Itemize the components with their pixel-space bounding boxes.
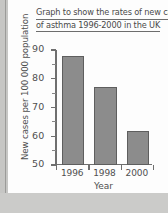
y-minor-tick-65	[52, 121, 56, 122]
plot-area: 5060708090 199619982000	[55, 50, 152, 165]
y-tick-50: 50	[51, 164, 56, 165]
page-bottom-band	[0, 193, 168, 213]
chart-title-line-2: of asthma 1996-2000 in the UK	[36, 20, 160, 33]
y-axis-title: New cases per 100 000 population	[20, 30, 30, 160]
chart-title-line-1: Graph to show the rates of new cases	[36, 7, 168, 20]
x-tick-label-1998: 1998	[88, 168, 120, 178]
y-minor-tick-75	[52, 93, 56, 94]
x-separator-3	[153, 165, 154, 170]
x-separator-1	[88, 165, 89, 170]
screenshot-root: Graph to show the rates of new cases of …	[0, 0, 168, 213]
y-minor-tick-55	[52, 150, 56, 151]
y-tick-70: 70	[51, 107, 56, 108]
y-tick-label-60: 60	[32, 130, 45, 141]
x-separator-2	[121, 165, 122, 170]
x-separator-0	[56, 165, 57, 170]
y-tick-60: 60	[51, 136, 56, 137]
x-tick-label-2000: 2000	[121, 168, 153, 178]
bar-1996	[62, 56, 85, 165]
y-tick-label-70: 70	[32, 101, 45, 112]
x-axis-title: Year	[55, 181, 152, 191]
y-tick-80: 80	[51, 78, 56, 79]
bar-1998	[94, 87, 117, 165]
x-tick-label-1996: 1996	[56, 168, 88, 178]
y-minor-tick-85	[52, 64, 56, 65]
y-tick-label-50: 50	[32, 158, 45, 169]
chart-title: Graph to show the rates of new cases of …	[36, 7, 168, 32]
chart-paper: Graph to show the rates of new cases of …	[8, 0, 168, 193]
margin-rule-line	[5, 0, 6, 195]
bar-2000	[127, 131, 150, 166]
y-tick-90: 90	[51, 49, 56, 50]
y-tick-label-80: 80	[32, 72, 45, 83]
page-left-gutter	[0, 0, 8, 213]
y-tick-label-90: 90	[32, 43, 45, 54]
